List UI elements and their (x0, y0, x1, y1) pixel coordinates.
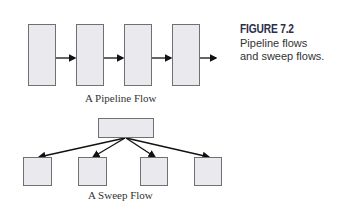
sweep-target-3 (140, 157, 168, 186)
sweep-caption: A Sweep Flow (88, 189, 153, 201)
pipeline-stage-3 (124, 24, 152, 86)
figure-description-line-1: Pipeline flows (240, 37, 324, 50)
sweep-arrow-4 (126, 138, 209, 157)
sweep-arrow-1 (39, 138, 125, 157)
pipeline-stage-1 (28, 24, 56, 86)
pipeline-caption: A Pipeline Flow (85, 92, 157, 104)
pipeline-stage-4 (172, 24, 200, 86)
sweep-target-2 (78, 157, 107, 186)
figure-description-line-2: and sweep flows. (240, 50, 324, 63)
figure-label: FIGURE 7.2 (240, 22, 294, 36)
sweep-target-4 (194, 157, 222, 186)
sweep-target-1 (23, 157, 52, 186)
sweep-arrow-2 (93, 138, 125, 157)
sweep-source (98, 118, 154, 138)
figure-description: Pipeline flows and sweep flows. (240, 37, 324, 63)
pipeline-stage-2 (76, 24, 104, 86)
figure-7-2: A Pipeline Flow A Sweep Flow FIGURE 7.2 … (0, 0, 338, 207)
